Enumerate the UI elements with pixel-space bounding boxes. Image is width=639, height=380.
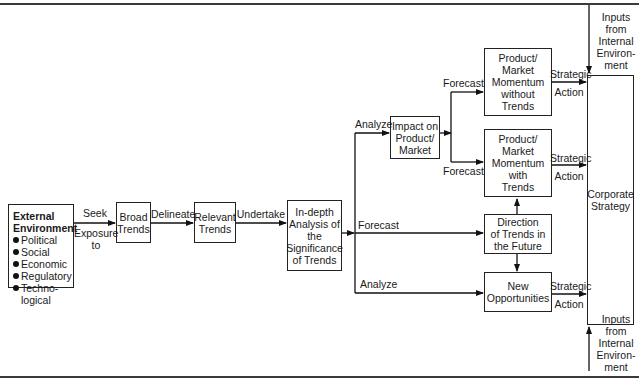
indepth-analysis-box: In-depth Analysis of the Significance of… [287, 200, 342, 271]
bullet-icon [13, 285, 19, 291]
label-inputs-internal-top: Inputs from Internal Environ- ment [593, 11, 639, 71]
factor-social: Social [13, 246, 77, 258]
label-analyze-top: Analyze [355, 118, 391, 130]
bullet-icon [13, 273, 19, 279]
label-forecast-upper: Forecast [443, 77, 483, 89]
external-environment-title-1: External [13, 210, 77, 222]
label-strategic-3: Strategic [550, 280, 588, 292]
external-factors-list: Political Social Economic Regulatory Tec… [13, 234, 77, 306]
label-exposure-to: Exposure to [74, 227, 118, 251]
bullet-icon [13, 261, 19, 267]
label-forecast-lower: Forecast [443, 165, 483, 177]
bullet-icon [13, 237, 19, 243]
factor-technological: Techno- logical [13, 282, 77, 306]
factor-economic: Economic [13, 258, 77, 270]
bullet-icon [13, 249, 19, 255]
label-action-1: Action [550, 86, 588, 98]
direction-of-trends-box: Direction of Trends in the Future [484, 214, 552, 254]
impact-box: Impact on Product/ Market [390, 116, 440, 159]
relevant-trends-box: Relevant Trends [194, 202, 236, 243]
label-action-2: Action [550, 170, 588, 182]
label-inputs-internal-bottom: Inputs from Internal Environ- ment [593, 313, 639, 373]
label-action-3: Action [550, 298, 588, 310]
momentum-without-trends-box: Product/ Market Momentum without Trends [484, 48, 552, 116]
momentum-with-trends-box: Product/ Market Momentum with Trends [484, 129, 552, 197]
label-forecast-mid: Forecast [358, 219, 398, 231]
label-analyze-bottom: Analyze [360, 278, 400, 290]
broad-trends-box: Broad Trends [116, 202, 151, 243]
corporate-strategy-box: Corporate Strategy [587, 75, 634, 325]
label-seek: Seek [80, 207, 110, 219]
new-opportunities-box: New Opportunities [484, 272, 552, 312]
label-strategic-1: Strategic [550, 68, 588, 80]
label-undertake: Undertake [235, 208, 287, 220]
label-strategic-2: Strategic [550, 152, 588, 164]
factor-regulatory: Regulatory [13, 270, 77, 282]
external-environment-box: External Environment Political Social Ec… [8, 204, 74, 288]
factor-political: Political [13, 234, 77, 246]
label-delineate: Delineate [151, 208, 195, 220]
external-environment-title-2: Environment [13, 222, 77, 234]
